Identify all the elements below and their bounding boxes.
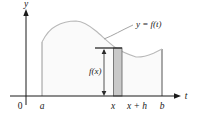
origin-label: 0	[18, 101, 23, 111]
height-label: f(x)	[89, 66, 102, 76]
t-axis-arrowhead	[174, 93, 181, 98]
t-axis-label: t	[185, 91, 188, 101]
y-axis-label: y	[23, 0, 29, 9]
tick-label-x-plus-h: x + h	[126, 101, 147, 111]
curve-label: y = f(t)	[135, 19, 162, 29]
tick-label-a: a	[40, 101, 45, 111]
area-function-diagram: f(x) y = f(t) y t 0 a x x + h b	[0, 0, 200, 117]
y-axis-arrowhead	[23, 9, 28, 16]
tick-label-x: x	[110, 101, 116, 111]
curve-label-leader-line	[104, 25, 133, 39]
incremental-strip	[114, 48, 123, 96]
figure-container: f(x) y = f(t) y t 0 a x x + h b	[0, 0, 200, 117]
shaded-area-region	[42, 21, 162, 96]
tick-label-b: b	[160, 101, 165, 111]
